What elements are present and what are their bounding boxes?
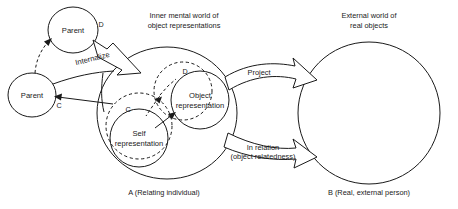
- solid-arrow-self-to-object: [155, 115, 172, 128]
- object-representation-label-line1: Object: [189, 91, 212, 100]
- external-world-heading-line1: External world of: [341, 11, 397, 20]
- diagram-canvas: Parent D Parent C Internalize Self repre…: [0, 0, 458, 209]
- self-representation-label-line1: Self: [132, 129, 146, 138]
- dashed-arrow-parent-left-to-top: [35, 42, 48, 73]
- in-relation-label-line1: In relation: [247, 143, 279, 152]
- object-representation-circle: [171, 71, 229, 129]
- parent-left-label: Parent: [21, 91, 44, 100]
- inner-world-heading-line1: Inner mental world of: [149, 11, 219, 20]
- project-label: Project: [247, 68, 270, 77]
- parent-top-label: Parent: [62, 26, 85, 35]
- external-world-boundary-circle: [298, 42, 440, 184]
- object-representation-letter-label: D: [182, 67, 187, 76]
- in-relation-label-line2: (object relatedness): [231, 152, 296, 161]
- dashed-arrowhead-parent-top: [44, 38, 52, 46]
- external-world-heading-line2: real objects: [350, 21, 388, 30]
- self-representation-letter-label: C: [125, 105, 130, 114]
- self-representation-circle: [110, 109, 168, 167]
- parent-left-letter-label: C: [56, 101, 61, 110]
- self-representation-label-line2: representation: [115, 139, 164, 148]
- self-representation-dashed-ring: [106, 93, 172, 159]
- parent-top-letter-label: D: [98, 20, 103, 29]
- solid-arrow-self-to-parent-left: [58, 97, 113, 104]
- caption-real-external-person: B (Real, external person): [328, 188, 410, 197]
- object-representation-label-line2: representation: [176, 101, 225, 110]
- curve-inner-vertical: [102, 73, 104, 112]
- inner-world-heading-line2: object representations: [148, 21, 221, 30]
- caption-relating-individual: A (Relating individual): [128, 188, 199, 197]
- object-relations-diagram: Parent D Parent C Internalize Self repre…: [0, 0, 458, 209]
